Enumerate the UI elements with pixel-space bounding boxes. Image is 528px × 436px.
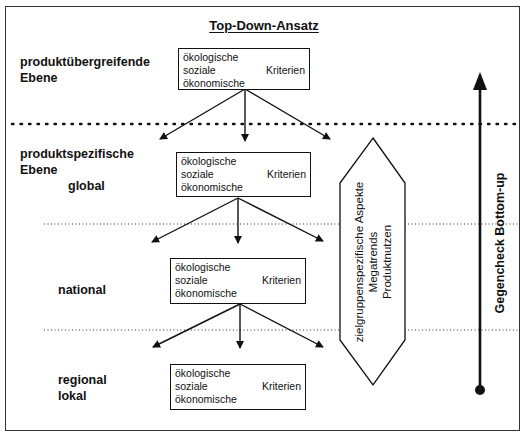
criteria-box-produktuebergreifend: ökologische sozialeKriterien ökonomische [178,48,310,90]
bottom-up-check-label: Gegencheck Bottom-up [493,173,507,314]
arrow-up-icon [473,72,487,90]
side-shape-text: zielgruppenspezifische Aspekte Megatrend… [352,142,394,382]
criteria-box-national: ökologische sozialeKriterien ökonomische [170,258,306,304]
arrow-origin-dot-icon [475,385,485,395]
criteria-box-global: ökologische sozialeKriterien ökonomische [176,152,311,197]
criteria-box-regional: ökologische sozialeKriterien ökonomische [170,364,306,410]
